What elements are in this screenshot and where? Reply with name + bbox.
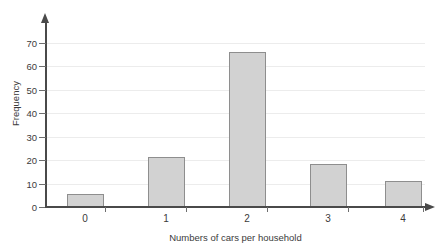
y-tick-20 [39, 160, 46, 161]
gridline-70 [46, 43, 425, 44]
x-axis-arrow-icon [425, 203, 435, 211]
y-tick-label-0: 0 [9, 203, 37, 213]
x-tick-1 [186, 207, 187, 212]
x-tick-3 [348, 207, 349, 212]
x-tick-label-0: 0 [65, 214, 105, 224]
bar-category-2 [229, 52, 266, 207]
y-axis-title: Frequency [10, 64, 21, 144]
y-tick-label-20: 20 [9, 156, 37, 166]
y-tick-60 [39, 66, 46, 67]
x-tick-2 [267, 207, 268, 212]
x-axis-line [45, 206, 426, 208]
y-tick-50 [39, 90, 46, 91]
bar-category-3 [310, 164, 347, 207]
x-axis-title: Numbers of cars per household [45, 232, 426, 243]
x-tick-0 [105, 207, 106, 212]
y-tick-10 [39, 184, 46, 185]
y-tick-40 [39, 113, 46, 114]
x-tick-label-3: 3 [308, 214, 348, 224]
x-tick-4 [423, 207, 424, 212]
bar-chart: 70 60 50 40 30 20 10 0 0 1 2 3 4 Numbers… [0, 0, 448, 251]
y-tick-label-70: 70 [9, 39, 37, 49]
y-axis-arrow-icon [41, 13, 49, 23]
bar-category-1 [148, 157, 185, 207]
x-tick-label-2: 2 [227, 214, 267, 224]
x-tick-label-4: 4 [383, 214, 423, 224]
x-tick-label-1: 1 [146, 214, 186, 224]
y-tick-70 [39, 43, 46, 44]
y-tick-30 [39, 137, 46, 138]
bar-category-4 [385, 181, 422, 207]
y-tick-label-10: 10 [9, 180, 37, 190]
